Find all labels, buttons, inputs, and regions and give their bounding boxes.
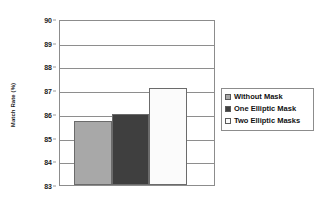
plot-area	[59, 20, 215, 186]
y-axis-title-label: Match Rate (%)	[10, 83, 16, 127]
chart-legend: Without MaskOne Elliptic MaskTwo Ellipti…	[221, 88, 314, 131]
y-axis-tick-85: 85	[44, 135, 52, 142]
y-axis-tick-labels: 9089888786858483	[22, 20, 56, 186]
y-axis-tick-87: 87	[44, 88, 52, 95]
legend-swatch-icon	[225, 94, 231, 100]
bar-one-elliptic-mask[interactable]	[112, 114, 150, 185]
y-axis-title: Match Rate (%)	[2, 0, 24, 210]
legend-swatch-icon	[225, 118, 231, 124]
legend-item-two-elliptic-masks[interactable]: Two Elliptic Masks	[225, 115, 310, 127]
y-axis-tick-mark	[53, 138, 56, 139]
y-axis-tick-89: 89	[44, 40, 52, 47]
legend-item-label: Two Elliptic Masks	[234, 117, 300, 125]
y-axis-tick-mark	[53, 162, 56, 163]
legend-item-without-mask[interactable]: Without Mask	[225, 91, 310, 103]
y-axis-tick-mark	[53, 91, 56, 92]
legend-swatch-icon	[225, 106, 231, 112]
y-axis-tick-mark	[53, 43, 56, 44]
y-axis-tick-mark	[53, 67, 56, 68]
y-axis-tick-88: 88	[44, 64, 52, 71]
legend-item-one-elliptic-mask[interactable]: One Elliptic Mask	[225, 103, 310, 115]
y-axis-tick-mark	[53, 114, 56, 115]
bar-without-mask[interactable]	[74, 121, 112, 185]
bar-chart: Match Rate (%) 9089888786858483 Without …	[0, 0, 320, 210]
bar-two-elliptic-masks[interactable]	[149, 88, 187, 185]
bars-layer	[60, 21, 214, 185]
legend-item-label: One Elliptic Mask	[234, 105, 296, 113]
y-axis-tick-90: 90	[44, 17, 52, 24]
y-axis-tick-84: 84	[44, 159, 52, 166]
y-axis-tick-mark	[53, 20, 56, 21]
legend-item-label: Without Mask	[234, 93, 283, 101]
y-axis-tick-mark	[53, 186, 56, 187]
y-axis-tick-86: 86	[44, 111, 52, 118]
y-axis-tick-83: 83	[44, 183, 52, 190]
